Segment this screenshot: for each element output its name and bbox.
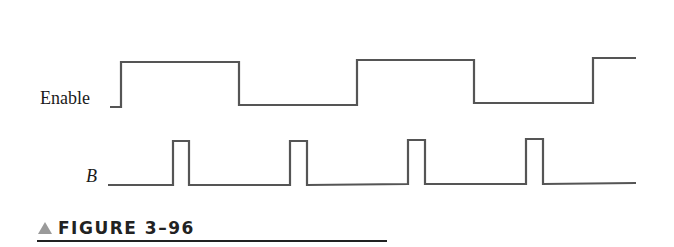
caption-rule (37, 240, 387, 242)
enable-waveform (110, 58, 636, 107)
figure-caption: FIGURE 3–96 (38, 218, 195, 238)
b-waveform (108, 139, 636, 185)
figure-number: FIGURE 3–96 (58, 218, 195, 238)
triangle-marker-icon (38, 222, 52, 234)
timing-diagram (0, 0, 674, 247)
